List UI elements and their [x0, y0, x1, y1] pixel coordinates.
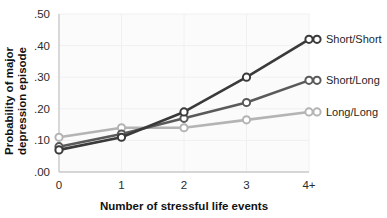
- legend-item-short-long: Short/Long: [313, 74, 379, 86]
- x-tick-label: 2: [181, 179, 187, 191]
- data-point: [305, 108, 312, 115]
- legend-marker-icon: [313, 36, 320, 43]
- data-point: [305, 77, 312, 84]
- y-tick-label: .30: [34, 71, 50, 83]
- x-tick-label: 3: [243, 179, 249, 191]
- data-point: [118, 134, 125, 141]
- y-tick-label: .40: [34, 40, 50, 52]
- data-point: [243, 116, 250, 123]
- y-axis-tick-labels: .00.10.20.30.40.50: [34, 8, 50, 178]
- x-axis-title: Number of stressful life events: [100, 200, 268, 212]
- legend-marker-icon: [313, 108, 320, 115]
- x-tick-label: 0: [56, 179, 62, 191]
- y-axis-title-line1: Probability of major: [3, 46, 15, 155]
- x-axis-tick-labels: 01234+: [56, 179, 316, 191]
- legend-label: Long/Long: [326, 106, 378, 118]
- line-chart: .00.10.20.30.40.50 01234+ Short/ShortSho…: [0, 0, 387, 218]
- data-point: [243, 74, 250, 81]
- legend-item-long-long: Long/Long: [313, 106, 378, 118]
- chart-container: .00.10.20.30.40.50 01234+ Short/ShortSho…: [0, 0, 387, 218]
- y-tick-label: .10: [34, 134, 50, 146]
- x-tick-label: 4+: [302, 179, 315, 191]
- x-tick-label: 1: [118, 179, 124, 191]
- legend-label: Short/Long: [326, 74, 380, 86]
- data-point: [180, 108, 187, 115]
- y-tick-label: .00: [34, 166, 50, 178]
- data-point: [180, 124, 187, 131]
- chart-legend: Short/ShortShort/LongLong/Long: [313, 33, 381, 118]
- legend-item-short-short: Short/Short: [313, 33, 381, 45]
- y-tick-label: .50: [34, 8, 50, 20]
- legend-marker-icon: [313, 77, 320, 84]
- y-axis-title-line2: depression episode: [16, 47, 28, 155]
- data-point: [55, 146, 62, 153]
- data-point: [305, 36, 312, 43]
- data-point: [243, 99, 250, 106]
- data-point: [55, 134, 62, 141]
- y-axis-title: Probability of major depression episode: [3, 46, 28, 155]
- legend-label: Short/Short: [326, 33, 382, 45]
- y-tick-label: .20: [34, 103, 50, 115]
